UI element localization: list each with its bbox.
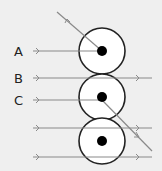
- diagram-canvas: A B C: [0, 0, 162, 171]
- label-c: C: [14, 93, 23, 108]
- nucleus-1: [97, 46, 107, 56]
- label-a: A: [14, 44, 23, 59]
- nucleus-2: [97, 92, 107, 102]
- label-b: B: [14, 71, 23, 86]
- nucleus-3: [97, 136, 107, 146]
